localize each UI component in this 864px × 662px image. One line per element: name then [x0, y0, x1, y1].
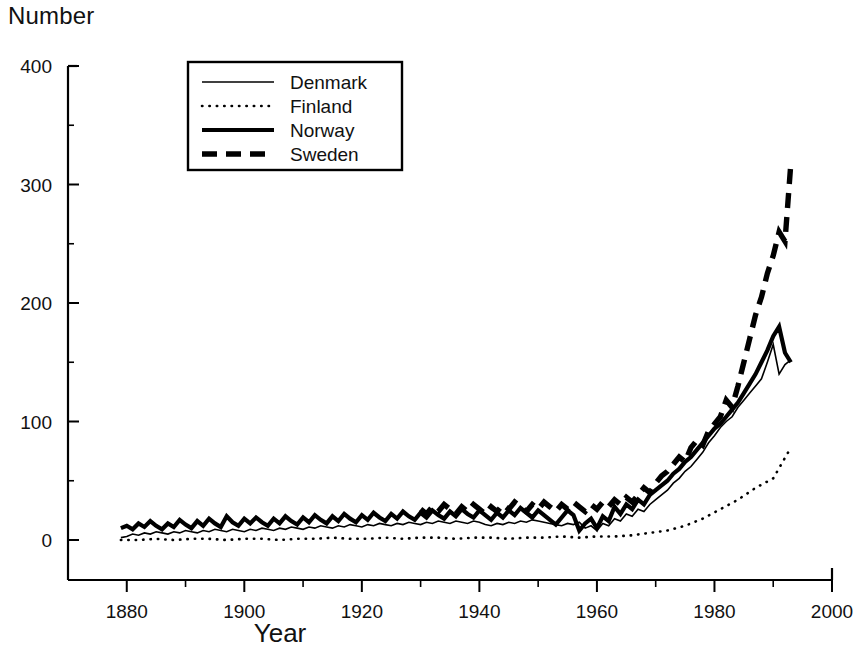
axis-tick-labels: 0100200300400188019001920194019601980200…: [20, 56, 853, 622]
y-tick-label: 300: [20, 175, 52, 196]
x-tick-label: 1940: [458, 601, 500, 622]
x-tick-label: 1960: [576, 601, 618, 622]
y-tick-label: 400: [20, 56, 52, 77]
data-series: [121, 163, 791, 540]
series-line-norway: [121, 327, 791, 531]
legend-label-norway: Norway: [290, 120, 355, 141]
chart-legend: DenmarkFinlandNorwaySweden: [188, 62, 402, 170]
x-tick-label: 1880: [106, 601, 148, 622]
plot-area: 0100200300400188019001920194019601980200…: [0, 0, 864, 662]
legend-label-sweden: Sweden: [290, 144, 359, 165]
y-tick-label: 100: [20, 412, 52, 433]
axes: [68, 66, 832, 580]
legend-label-finland: Finland: [290, 96, 352, 117]
series-line-sweden: [421, 163, 791, 514]
x-tick-label: 1980: [693, 601, 735, 622]
x-tick-label: 1920: [341, 601, 383, 622]
y-tick-label: 200: [20, 293, 52, 314]
x-tick-label: 1900: [223, 601, 265, 622]
x-tick-label: 2000: [811, 601, 853, 622]
chart-container: Number Year 0100200300400188019001920194…: [0, 0, 864, 662]
y-tick-label: 0: [41, 530, 52, 551]
legend-label-denmark: Denmark: [290, 72, 368, 93]
series-line-denmark: [121, 344, 791, 537]
